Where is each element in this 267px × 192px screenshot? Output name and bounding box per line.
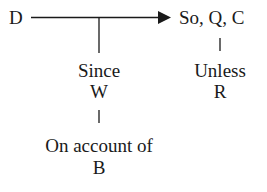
rebuttal-label: R	[214, 82, 227, 102]
data-label: D	[9, 8, 23, 28]
backing-connector: On account of	[45, 136, 153, 156]
diagram-connectors	[0, 0, 267, 192]
warrant-label: W	[90, 82, 108, 102]
backing-label: B	[93, 158, 106, 178]
claim-label: So, Q, C	[179, 8, 244, 28]
rebuttal-connector: Unless	[194, 61, 246, 81]
warrant-connector: Since	[78, 61, 120, 81]
arrowhead-icon	[158, 11, 171, 24]
